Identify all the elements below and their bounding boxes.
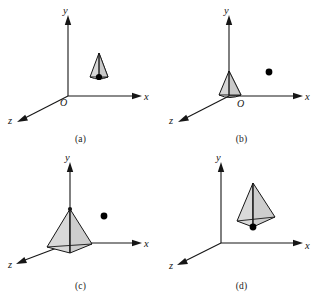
point-dot <box>266 69 273 76</box>
z-axis-line <box>185 243 221 261</box>
y-axis-label: y <box>215 152 221 163</box>
panel-caption-a: (a) <box>0 134 161 144</box>
vertex-dot <box>250 224 257 231</box>
tetrahedron-shape <box>237 183 275 227</box>
origin-label: O <box>60 97 67 108</box>
x-axis-label: x <box>143 91 149 102</box>
x-axis-arrowhead <box>293 93 303 99</box>
figure-panel-c: y x z (c) <box>0 147 161 293</box>
tetrahedron-face-right <box>70 209 92 253</box>
z-axis-label: z <box>168 260 173 271</box>
tetrahedron-shape <box>219 71 241 98</box>
y-axis-label: y <box>64 152 70 163</box>
y-axis-label: y <box>223 5 229 16</box>
figure-container: y x z O (a) y <box>0 0 323 293</box>
vertex-dot <box>96 74 102 80</box>
y-axis-label: y <box>62 5 68 16</box>
figure-panel-b: y x z O (b) <box>161 0 322 146</box>
y-axis-arrowhead <box>65 15 71 25</box>
point-dot <box>101 213 108 220</box>
y-axis-arrowhead <box>67 162 73 172</box>
panel-caption-c: (c) <box>0 281 161 291</box>
tetrahedron-face-right <box>99 53 108 77</box>
z-axis-arrowhead <box>177 258 188 265</box>
panel-caption-d: (d) <box>161 281 322 291</box>
figure-panel-d: y x z (d) <box>161 147 322 293</box>
tetrahedron-face-right <box>253 183 275 227</box>
x-axis-arrowhead <box>132 240 142 246</box>
tetrahedron-face-right <box>229 71 241 95</box>
figure-panel-a: y x z O (a) <box>0 0 161 146</box>
apex-dot <box>68 207 72 211</box>
panel-b-drawing: y x z O <box>161 0 322 128</box>
x-axis-label: x <box>304 91 310 102</box>
tetrahedron-shape <box>47 209 92 253</box>
x-axis-arrowhead <box>132 93 142 99</box>
z-axis-line <box>186 96 229 118</box>
panel-c-drawing: y x z <box>0 147 161 275</box>
z-axis-label: z <box>7 115 12 126</box>
z-axis-label: z <box>168 115 173 126</box>
z-axis-arrowhead <box>178 115 189 122</box>
x-axis-label: x <box>304 240 310 251</box>
y-axis-arrowhead <box>226 15 232 25</box>
z-axis-arrowhead <box>17 115 28 122</box>
x-axis-label: x <box>143 238 149 249</box>
origin-label: O <box>237 98 244 109</box>
panel-a-drawing: y x z O <box>0 0 161 128</box>
z-axis-label: z <box>7 259 12 270</box>
y-axis-arrowhead <box>218 162 224 172</box>
panel-caption-b: (b) <box>161 134 322 144</box>
panel-d-drawing: y x z <box>161 147 322 275</box>
x-axis-arrowhead <box>293 240 303 246</box>
z-axis-arrowhead <box>16 257 27 264</box>
